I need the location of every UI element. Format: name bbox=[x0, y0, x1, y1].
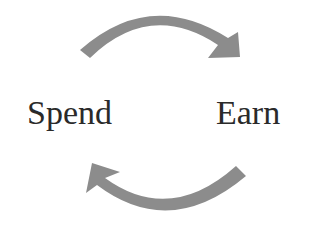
node-earn: Earn bbox=[216, 96, 280, 130]
node-spend: Spend bbox=[27, 96, 112, 130]
arrow-spend-to-earn bbox=[80, 16, 240, 58]
arrow-earn-to-spend bbox=[86, 163, 246, 210]
